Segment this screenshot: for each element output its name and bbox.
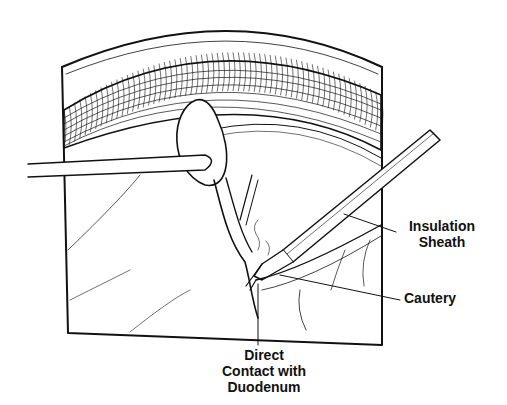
label-line: Direct xyxy=(212,347,316,363)
insulation-sheath-label: Insulation Sheath xyxy=(392,218,492,250)
label-line: Sheath xyxy=(392,234,492,250)
illustration xyxy=(0,0,507,405)
label-line: Insulation xyxy=(392,218,492,234)
label-line: Duodenum xyxy=(212,379,316,395)
label-line: Contact with xyxy=(212,363,316,379)
direct-contact-label: Direct Contact with Duodenum xyxy=(212,347,316,395)
cautery-label: Cautery xyxy=(404,290,456,306)
